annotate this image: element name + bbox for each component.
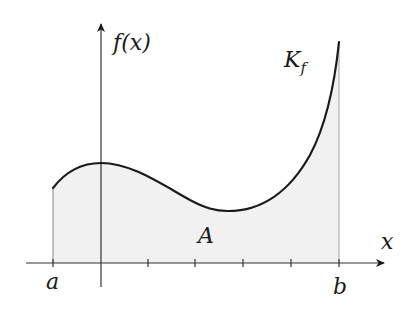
x-axis-label: x [381, 229, 394, 254]
right-bound-label: b [333, 274, 347, 299]
curve-label-main: K [283, 47, 302, 72]
curve-label-subscript: f [299, 59, 308, 77]
shaded-area-region [53, 42, 339, 263]
left-bound-label: a [46, 269, 59, 294]
area-under-curve-diagram: f(x) Kf A x a b [0, 0, 420, 330]
curve-label: Kf [283, 47, 308, 77]
y-axis-label: f(x) [111, 30, 151, 55]
area-label: A [196, 223, 214, 248]
